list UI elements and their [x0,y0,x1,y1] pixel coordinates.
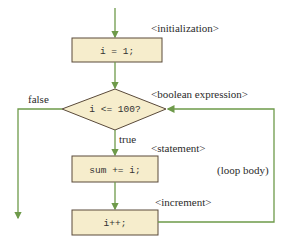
init-text: i = 1; [100,46,134,57]
flowchart: i = 1; <initialization> i <= 100? <boole… [0,0,287,244]
init-annotation: <initialization> [151,22,219,34]
false-branch-arrow [18,109,62,218]
condition-text: i <= 100? [89,104,140,115]
loop-body-label: (loop body) [217,164,269,177]
false-label: false [28,93,49,105]
increment-annotation: <increment> [155,196,211,208]
increment-text: i++; [104,218,127,229]
true-label: true [119,133,136,145]
statement-text: sum += i; [89,165,140,176]
condition-annotation: <boolean expression> [151,88,248,100]
statement-annotation: <statement> [151,142,206,154]
